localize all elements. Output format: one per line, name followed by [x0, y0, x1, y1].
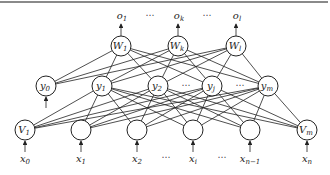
- edge-hidden-output: [162, 55, 173, 77]
- edge-hidden-output: [187, 50, 259, 82]
- input-node-4: [240, 120, 260, 140]
- output-ellipsis: ⋯: [146, 10, 155, 20]
- hidden-ellipsis: ⋯: [236, 80, 245, 90]
- edge-input-hidden: [219, 94, 244, 123]
- input-ellipsis: ⋯: [218, 152, 227, 162]
- input-label-x1: x1: [76, 153, 86, 166]
- input-label-x2: x2: [132, 153, 143, 166]
- edge-hidden-output: [56, 48, 226, 84]
- input-node-3: [183, 120, 203, 140]
- input-label-xi: xi: [189, 153, 197, 166]
- output-ellipsis: ⋯: [203, 10, 212, 20]
- edge-hidden-output: [106, 55, 116, 77]
- edge-input-hidden: [275, 93, 301, 122]
- hidden-ellipsis: ⋯: [182, 80, 191, 90]
- input-ellipsis: ⋯: [162, 152, 171, 162]
- input-label-x0: x0: [20, 153, 31, 166]
- input-node-1: [71, 120, 91, 140]
- edge-input-hidden: [34, 91, 94, 125]
- input-label-xn−1: xn−1: [240, 153, 260, 166]
- output-label-ol: ol: [233, 10, 241, 23]
- input-node-2: [127, 120, 147, 140]
- output-label-ok: ok: [174, 10, 184, 23]
- neural-network-diagram: o1okol⋯⋯x0x1x2xixn−1xn⋯⋯⋯⋯W1WkWly0y1y2yj…: [0, 0, 330, 175]
- input-label-xn: xn: [302, 153, 313, 166]
- edge-hidden-output: [242, 54, 262, 78]
- output-label-o1: o1: [117, 10, 128, 23]
